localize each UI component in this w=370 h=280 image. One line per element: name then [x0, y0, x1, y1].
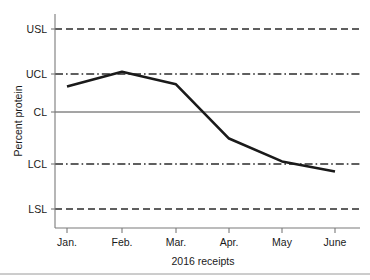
x-tick-label-apr: Apr.: [220, 236, 239, 248]
y-tick-label-cl: CL: [34, 106, 48, 118]
x-axis-title: 2016 receipts: [171, 255, 234, 267]
y-tick-label-ucl: UCL: [26, 68, 47, 80]
x-tick-label-june: June: [324, 236, 347, 248]
x-tick-label-may: May: [272, 236, 293, 248]
y-tick-label-usl: USL: [27, 23, 48, 35]
x-tick-label-feb: Feb.: [111, 236, 132, 248]
y-tick-label-lsl: LSL: [28, 203, 47, 215]
x-tick-label-mar: Mar.: [166, 236, 186, 248]
control-chart-figure: USL UCL CL LCL LSL Percent protein Jan. …: [0, 0, 370, 280]
control-chart-canvas: USL UCL CL LCL LSL Percent protein Jan. …: [0, 0, 370, 280]
y-tick-label-lcl: LCL: [28, 158, 47, 170]
y-axis-title: Percent protein: [12, 85, 24, 156]
x-tick-label-jan: Jan.: [57, 236, 77, 248]
